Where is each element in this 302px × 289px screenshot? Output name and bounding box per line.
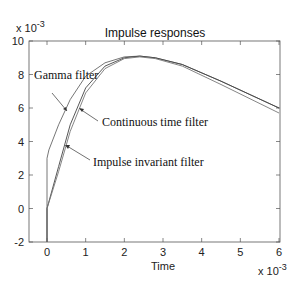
y-tick-label: -2 — [14, 236, 24, 248]
annotation-continuous: Continuous time filter — [79, 108, 208, 129]
annotation-continuous-label: Continuous time filter — [102, 115, 208, 129]
impulse-response-chart: x 10-3 Impulse responses 0123456-2024681… — [0, 0, 302, 289]
series-line-gamma-filter — [47, 56, 279, 242]
annotation-impulse-invariant-label: Impulse invariant filter — [93, 155, 204, 169]
y-tick-label: 8 — [18, 69, 24, 81]
series-line-continuous-time-filter — [47, 56, 279, 242]
chart-title: Impulse responses — [105, 26, 206, 40]
x-tick-label: 6 — [276, 246, 282, 258]
y-multiplier-label: x 10-3 — [16, 19, 45, 34]
y-tick-label: 6 — [18, 102, 24, 114]
series-line-impulse-invariant-filter — [47, 57, 279, 242]
annotation-impulse-invariant: Impulse invariant filter — [65, 145, 204, 169]
data-series — [47, 56, 279, 242]
x-tick-label: 5 — [237, 246, 243, 258]
x-tick-label: 1 — [83, 246, 89, 258]
x-multiplier-label: x 10-3 — [258, 262, 287, 277]
x-tick-label: 2 — [121, 246, 127, 258]
x-tick-label: 0 — [44, 246, 50, 258]
x-axis-label: Time — [151, 260, 175, 272]
y-tick-label: 0 — [18, 203, 24, 215]
x-tick-label: 3 — [160, 246, 166, 258]
x-tick-label: 4 — [199, 246, 205, 258]
y-tick-label: 2 — [18, 169, 24, 181]
annotation-gamma-label: Gamma filter — [34, 68, 98, 82]
y-tick-label: 10 — [12, 35, 24, 47]
y-tick-label: 4 — [18, 136, 24, 148]
